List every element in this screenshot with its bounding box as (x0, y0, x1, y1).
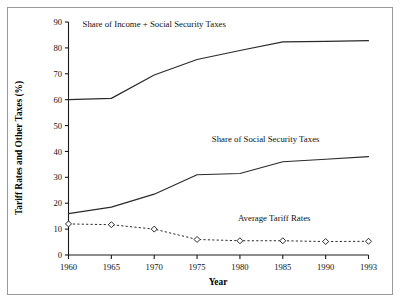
series-marker-2-5 (280, 238, 286, 244)
y-tick-label: 0 (58, 250, 62, 260)
y-tick-label: 60 (53, 95, 62, 105)
series-line-1 (69, 157, 369, 214)
x-tick-label: 1960 (60, 262, 77, 272)
line-chart: 0102030405060708090 19601965197019751980… (0, 0, 402, 304)
series-marker-2-7 (366, 238, 372, 244)
x-tick-label: 1985 (274, 262, 291, 272)
series-marker-2-1 (108, 222, 114, 228)
y-tick-label: 10 (53, 224, 62, 234)
x-tick-label: 1990 (317, 262, 334, 272)
series-annotations: Share of Income + Social Security TaxesS… (82, 19, 320, 223)
series-marker-2-6 (323, 239, 329, 245)
x-axis-title: Year (209, 277, 228, 287)
annotation-1: Share of Social Security Taxes (212, 134, 320, 144)
plot-area: 0102030405060708090 19601965197019751980… (0, 0, 402, 304)
x-axis-ticks: 19601965197019751980198519901993 (60, 255, 377, 272)
y-tick-label: 20 (53, 198, 62, 208)
y-tick-label: 90 (53, 17, 62, 27)
y-tick-label: 50 (53, 121, 62, 131)
series-line-0 (69, 41, 369, 100)
x-tick-label: 1970 (146, 262, 163, 272)
series-marker-2-0 (66, 221, 72, 227)
series-marker-2-3 (194, 236, 200, 242)
series-line-2 (69, 224, 369, 242)
y-axis-title: Tariff Rates and Other Taxes (%) (14, 81, 25, 215)
series-marker-2-4 (237, 238, 243, 244)
y-tick-label: 70 (53, 69, 62, 79)
figure-root: 0102030405060708090 19601965197019751980… (0, 0, 402, 304)
y-tick-label: 40 (53, 147, 62, 157)
annotation-2: Average Tariff Rates (238, 213, 311, 223)
annotation-0: Share of Income + Social Security Taxes (82, 19, 226, 29)
x-tick-label: 1993 (360, 262, 377, 272)
y-tick-label: 30 (53, 172, 62, 182)
x-tick-label: 1980 (231, 262, 248, 272)
series-marker-2-2 (151, 226, 157, 232)
y-tick-label: 80 (53, 43, 62, 53)
x-tick-label: 1965 (103, 262, 120, 272)
x-tick-label: 1975 (188, 262, 205, 272)
